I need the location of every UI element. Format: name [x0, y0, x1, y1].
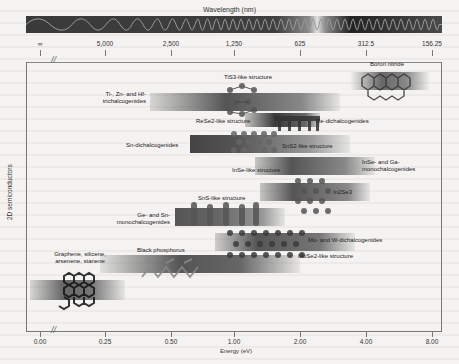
label-graphene-family: Graphene, silicene, arsenene, stanene [50, 251, 110, 265]
wavelength-tick-5: 312.5 [358, 40, 374, 47]
label-boron-nitride: Boron nitride [370, 61, 404, 68]
top-tick [300, 50, 301, 56]
wavelength-tick-4: 625 [295, 40, 306, 47]
label-inse-like: InSe-like structure [232, 167, 280, 174]
wavelength-tick-1: 5,000 [97, 40, 113, 47]
label-inse-ga-monochalcogenides: InSe- and Ga-monochalcogenides [362, 159, 452, 173]
label-trichalcogenides: Ti-, Zn- and Hf-trichalcogenides [80, 91, 146, 105]
axis-break-bottom: // [51, 325, 56, 335]
bottom-tick [366, 332, 367, 337]
bottom-tick [234, 332, 235, 337]
top-tick [105, 50, 106, 56]
sns2-structure-icon [228, 128, 288, 156]
wave-icon [26, 16, 442, 33]
top-tick [171, 50, 172, 56]
label-in2se3: In2Se3 [333, 189, 352, 196]
in2se3-structure-icon [292, 175, 340, 217]
wavelength-axis-title: Wavelength (nm) [0, 6, 459, 13]
label-mose2-like: MoSe2-like structure [298, 253, 353, 260]
wavelength-tick-6: 156.25 [422, 40, 442, 47]
label-sn-dichalcogenides: Sn-dichalcogenides [126, 142, 178, 149]
label-sns2-like: SnS2-like structure [282, 143, 333, 150]
wavelength-tick-0: ∞ [38, 40, 43, 47]
label-mo-w-dichalcogenides: Mo- and W-dichalcogenides [308, 237, 382, 244]
wavelength-spectrum-bar [26, 16, 442, 33]
bottom-tick [300, 332, 301, 337]
bottom-tick [40, 332, 41, 337]
top-tick [40, 50, 41, 56]
energy-tick-3: 1.00 [228, 338, 241, 345]
energy-tick-0: 0.00 [34, 338, 47, 345]
energy-tick-4: 2.00 [294, 338, 307, 345]
label-tis3-like: TiS3-like structure [224, 74, 272, 81]
boron-nitride-structure-icon [358, 68, 420, 102]
energy-axis-title: Energy (eV) [220, 348, 252, 354]
label-re-dichalcogenides: Re-dichalcogenides [316, 118, 369, 125]
label-sns-like: SnS-like structure [198, 195, 245, 202]
graphene-structure-icon [58, 270, 100, 312]
y-axis-label: 2D semiconductors [6, 164, 13, 220]
bottom-tick [432, 332, 433, 337]
bottom-tick [171, 332, 172, 337]
label-ge-sn-monochalcogenides: Ge- and Sn-monochalcogenides [90, 212, 170, 226]
tis3-structure-icon [220, 80, 265, 120]
label-black-phosphorus: Black phosphorus [137, 247, 185, 254]
bottom-tick [105, 332, 106, 337]
top-tick [432, 50, 433, 56]
axis-break-top: // [51, 55, 56, 65]
energy-tick-5: 4.00 [360, 338, 373, 345]
wavelength-tick-3: 1,250 [226, 40, 242, 47]
top-tick [234, 50, 235, 56]
top-tick [366, 50, 367, 56]
energy-tick-1: 0.25 [99, 338, 112, 345]
energy-tick-2: 0.50 [165, 338, 178, 345]
energy-tick-6: 8.00 [426, 338, 439, 345]
black-phosphorus-structure-icon [140, 255, 200, 285]
wavelength-tick-2: 2,500 [163, 40, 179, 47]
label-rese2-like: ReSe2-like structure [196, 118, 250, 125]
